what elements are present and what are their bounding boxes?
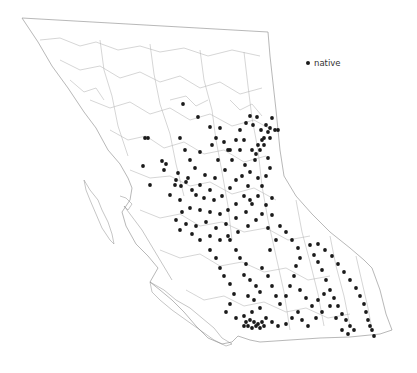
occurrence-point: [213, 176, 217, 180]
occurrence-point: [332, 296, 336, 300]
occurrence-point: [203, 173, 207, 177]
occurrence-point: [298, 256, 302, 260]
occurrence-point: [234, 248, 238, 252]
occurrence-point: [254, 218, 258, 222]
occurrence-point: [250, 202, 254, 206]
occurrence-point: [270, 320, 274, 324]
occurrence-point: [320, 310, 324, 314]
occurrence-point: [186, 176, 190, 180]
occurrence-point: [248, 278, 252, 282]
occurrence-point: [224, 310, 228, 314]
occurrence-point: [264, 174, 268, 178]
legend-label-native: native: [314, 58, 341, 68]
occurrence-point: [254, 284, 258, 288]
occurrence-point: [344, 318, 348, 322]
occurrence-point: [316, 242, 320, 246]
occurrence-point: [252, 320, 256, 324]
occurrence-point: [250, 148, 254, 152]
occurrence-point: [196, 115, 200, 119]
occurrence-point: [246, 224, 250, 228]
occurrence-point: [181, 102, 185, 106]
occurrence-point: [212, 198, 216, 202]
occurrence-point: [234, 216, 238, 220]
occurrence-point: [193, 166, 197, 170]
occurrence-point: [346, 332, 350, 336]
occurrence-point: [230, 158, 234, 162]
occurrence-point: [208, 210, 212, 214]
occurrence-point: [290, 238, 294, 242]
occurrence-point: [228, 186, 232, 190]
occurrence-point: [222, 140, 226, 144]
occurrence-point: [244, 121, 248, 125]
occurrence-point: [246, 184, 250, 188]
occurrence-point: [262, 324, 266, 328]
occurrence-point: [242, 273, 246, 277]
occurrence-point: [148, 183, 152, 187]
occurrence-point: [270, 196, 274, 200]
occurrence-point: [244, 210, 248, 214]
occurrence-point: [322, 292, 326, 296]
occurrence-point: [266, 226, 270, 230]
occurrence-point: [256, 143, 260, 147]
map-legend: native: [306, 58, 341, 68]
occurrence-point: [292, 274, 296, 278]
occurrence-point: [370, 328, 374, 332]
occurrence-point: [208, 248, 212, 252]
occurrence-point: [290, 316, 294, 320]
occurrence-point: [190, 232, 194, 236]
occurrence-point: [252, 298, 256, 302]
occurrence-point: [276, 324, 280, 328]
occurrence-point: [184, 222, 188, 226]
occurrence-point: [178, 228, 182, 232]
occurrence-point: [258, 306, 262, 310]
occurrence-point: [242, 324, 246, 328]
occurrence-point: [300, 318, 304, 322]
occurrence-point: [274, 294, 278, 298]
occurrence-point: [264, 123, 268, 127]
occurrence-point: [183, 148, 187, 152]
occurrence-point: [372, 334, 376, 338]
occurrence-point: [214, 226, 218, 230]
occurrence-point: [340, 312, 344, 316]
occurrence-point: [270, 284, 274, 288]
occurrence-point: [216, 158, 220, 162]
occurrence-point: [330, 254, 334, 258]
occurrence-point: [168, 193, 172, 197]
occurrence-point: [226, 234, 230, 238]
occurrence-point: [218, 212, 222, 216]
occurrence-point: [316, 260, 320, 264]
occurrence-point: [146, 136, 150, 140]
occurrence-point: [352, 328, 356, 332]
occurrence-point: [180, 210, 184, 214]
occurrence-point: [284, 294, 288, 298]
occurrence-point: [253, 158, 257, 162]
occurrence-point: [256, 194, 260, 198]
occurrence-point: [323, 248, 327, 252]
occurrence-point: [188, 158, 192, 162]
occurrence-point: [210, 143, 214, 147]
occurrence-point: [244, 320, 248, 324]
occurrence-point: [243, 163, 247, 167]
occurrence-point: [308, 243, 312, 247]
occurrence-point: [220, 194, 224, 198]
occurrence-point: [334, 316, 338, 320]
occurrence-point: [248, 114, 252, 118]
occurrence-point: [250, 326, 254, 330]
occurrence-point: [260, 266, 264, 270]
occurrence-point: [250, 310, 254, 314]
occurrence-point: [208, 125, 212, 129]
occurrence-point: [254, 324, 258, 328]
occurrence-point: [262, 143, 266, 147]
occurrence-point: [176, 171, 180, 175]
occurrence-point: [228, 302, 232, 306]
river-network: [40, 38, 372, 330]
occurrence-point: [178, 198, 182, 202]
occurrence-point: [246, 324, 250, 328]
occurrence-point: [288, 284, 292, 288]
occurrence-point: [304, 296, 308, 300]
occurrence-point: [214, 136, 218, 140]
occurrence-point: [268, 136, 272, 140]
occurrence-point: [226, 208, 230, 212]
occurrence-point: [234, 178, 238, 182]
occurrence-point: [362, 302, 366, 306]
